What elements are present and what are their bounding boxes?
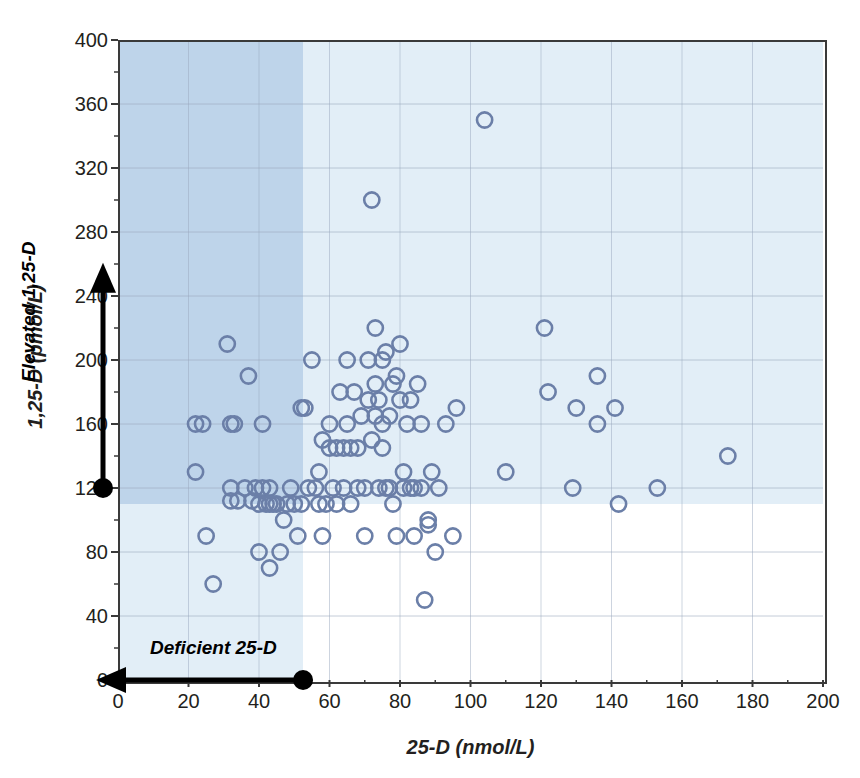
x-axis-title: 25-D (nmol/L) [118,736,823,759]
data-point [262,560,277,575]
data-point [438,416,453,431]
data-point [206,576,221,591]
y-axis-tick-label: 320 [48,157,108,180]
data-point [220,336,235,351]
annotation-label-deficient-25-d: Deficient 25-D [150,637,277,659]
data-point [255,416,270,431]
data-point [251,544,266,559]
x-axis-tick-label: 120 [506,690,576,713]
annotation-label-elevated-1-25-d: Elevated 1,25-D [18,242,40,382]
data-point [396,464,411,479]
y-axis-tick-label: 360 [48,93,108,116]
y-axis-tick-label: 400 [48,29,108,52]
data-point [590,416,605,431]
data-point [340,416,355,431]
data-point [364,432,379,447]
plot-area [118,40,823,680]
x-axis-tick-label: 60 [295,690,365,713]
data-point [569,400,584,415]
data-point [611,496,626,511]
y-axis-tick-label: 80 [48,541,108,564]
x-axis-tick-label: 40 [224,690,294,713]
data-point [371,392,386,407]
data-points-layer [118,40,823,680]
y-axis-tick-labels: 04080120160200240280320360400 [38,40,108,680]
scatter-plot-figure: 04080120160200240280320360400 0204060801… [0,0,860,778]
data-point [389,528,404,543]
y-axis-tick-label: 160 [48,413,108,436]
x-axis-tick-label: 20 [154,690,224,713]
data-point [565,480,580,495]
y-axis-tick-label: 280 [48,221,108,244]
data-point [590,368,605,383]
x-axis-tick-label: 100 [436,690,506,713]
data-point [283,480,298,495]
y-axis-tick-label: 0 [48,669,108,692]
y-axis-tick-label: 120 [48,477,108,500]
data-point [322,416,337,431]
data-point [417,592,432,607]
data-point [410,376,425,391]
data-point [375,440,390,455]
x-axis-tick-label: 0 [83,690,153,713]
data-point [368,376,383,391]
x-axis-tick-label: 200 [788,690,858,713]
data-point [407,528,422,543]
data-point [304,352,319,367]
data-point [357,528,372,543]
data-point [188,464,203,479]
data-point [368,320,383,335]
y-axis-tick-label: 200 [48,349,108,372]
x-axis-tick-label: 160 [647,690,717,713]
x-axis-tick-labels: 020406080100120140160180200 [118,690,823,720]
data-point [449,400,464,415]
y-axis-tick-label: 240 [48,285,108,308]
y-axis-tick-label: 40 [48,605,108,628]
data-point [276,512,291,527]
data-point [424,464,439,479]
data-point [273,544,288,559]
data-point [340,352,355,367]
x-axis-tick-label: 140 [577,690,647,713]
data-point [431,480,446,495]
x-axis-tick-label: 80 [365,690,435,713]
data-point [720,448,735,463]
data-point [241,368,256,383]
data-point [392,336,407,351]
data-point [428,544,443,559]
data-point [477,112,492,127]
data-point [540,384,555,399]
data-point [498,464,513,479]
data-point [403,392,418,407]
data-point [650,480,665,495]
data-point [199,528,214,543]
data-point [311,464,326,479]
data-point [385,496,400,511]
x-axis-tick-label: 180 [718,690,788,713]
data-point [537,320,552,335]
data-point [290,528,305,543]
data-point [315,528,330,543]
data-point [607,400,622,415]
data-point [445,528,460,543]
data-point [364,192,379,207]
